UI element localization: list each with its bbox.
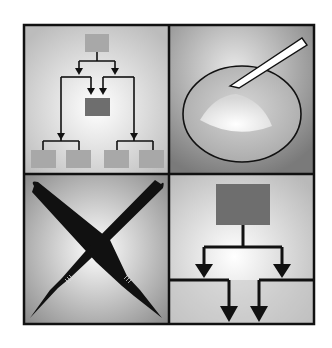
four-panel-illustration xyxy=(0,0,332,348)
